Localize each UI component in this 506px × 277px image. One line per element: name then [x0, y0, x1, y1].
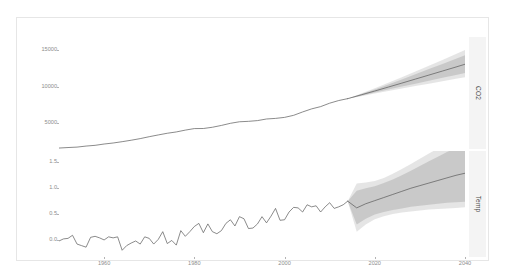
x-tick-mark-4	[465, 257, 466, 259]
strip-label-temp: Temp	[469, 151, 486, 257]
x-tick-label-2: 2000	[265, 261, 305, 267]
x-tick-label-1: 1980	[174, 261, 214, 267]
panel-temp	[59, 151, 465, 257]
y-tick-label-temp-1: 0.5	[17, 211, 57, 217]
chart-root: 50001000015000 0.00.51.01.5 CO2 Temp 196…	[0, 0, 506, 277]
y-axis-temp: 0.00.51.01.5	[17, 18, 57, 262]
plot-frame: 50001000015000 0.00.51.01.5 CO2 Temp 196…	[16, 17, 489, 261]
x-tick-label-4: 2040	[445, 261, 485, 267]
co2-series-svg	[59, 37, 465, 149]
strip-label-temp-text: Temp	[474, 196, 481, 213]
strip-label-co2: CO2	[469, 37, 486, 149]
x-tick-label-3: 2020	[355, 261, 395, 267]
y-tick-label-temp-0: 0.0	[17, 237, 57, 243]
panel-co2	[59, 37, 465, 149]
strip-label-co2-text: CO2	[474, 86, 481, 100]
x-tick-label-0: 1960	[84, 261, 124, 267]
x-tick-mark-2	[285, 257, 286, 259]
x-tick-mark-0	[104, 257, 105, 259]
y-tick-label-temp-3: 1.5	[17, 159, 57, 165]
x-tick-mark-3	[375, 257, 376, 259]
y-tick-label-temp-2: 1.0	[17, 185, 57, 191]
temp-series-svg	[59, 151, 465, 257]
x-tick-mark-1	[194, 257, 195, 259]
